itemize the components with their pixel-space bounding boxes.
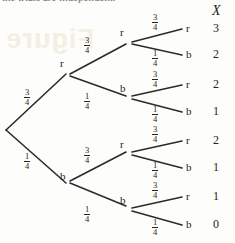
tree-node-n-bb: b xyxy=(120,195,126,206)
prob-label-leaf-7: 34 xyxy=(152,181,158,201)
branch-probability: 14 xyxy=(152,105,158,123)
tree-leaf-leaf-4: b xyxy=(186,106,192,117)
x-column-header: X xyxy=(212,4,221,18)
branch-probability: 14 xyxy=(24,152,30,170)
tree-leaf-leaf-5: r xyxy=(186,135,190,146)
tree-node-n-r: r xyxy=(60,58,64,69)
prob-label-leaf-2: 14 xyxy=(152,49,158,69)
tree-edge xyxy=(70,152,126,181)
branch-probability: 14 xyxy=(84,92,90,110)
tree-node-n-rb: b xyxy=(120,83,126,94)
branch-probability: 14 xyxy=(84,205,90,223)
tree-edge xyxy=(70,76,126,96)
x-value-6: 1 xyxy=(213,161,219,173)
x-value-7: 1 xyxy=(213,190,219,202)
tree-edge xyxy=(6,130,66,183)
tree-leaf-leaf-6: b xyxy=(186,162,192,173)
tree-branch-lines xyxy=(0,0,235,243)
tree-leaf-leaf-1: r xyxy=(186,23,190,34)
tree-leaf-leaf-2: b xyxy=(186,49,192,60)
branch-probability: 14 xyxy=(152,218,158,236)
prob-label-leaf-4: 14 xyxy=(152,105,158,125)
prob-label-n-rr: 34 xyxy=(84,36,90,56)
branch-probability: 14 xyxy=(152,161,158,179)
branch-probability: 34 xyxy=(152,125,158,143)
prob-label-leaf-5: 34 xyxy=(152,125,158,145)
branch-probability: 34 xyxy=(152,13,158,31)
prob-label-n-r: 34 xyxy=(24,88,30,108)
prob-label-leaf-8: 14 xyxy=(152,218,158,238)
prob-label-n-b: 14 xyxy=(24,152,30,172)
prob-label-n-rb: 14 xyxy=(84,92,90,112)
tree-leaf-leaf-7: r xyxy=(186,191,190,202)
branch-probability: 34 xyxy=(152,181,158,199)
prob-label-n-br: 34 xyxy=(84,146,90,166)
tree-edge xyxy=(6,74,66,130)
tree-node-n-rr: r xyxy=(120,27,124,38)
branch-probability: 14 xyxy=(152,49,158,67)
branch-probability: 34 xyxy=(152,70,158,88)
tree-edge xyxy=(70,183,126,206)
prob-label-n-bb: 14 xyxy=(84,205,90,225)
tree-edge xyxy=(70,44,126,74)
prob-label-leaf-1: 34 xyxy=(152,13,158,33)
probability-tree-figure: Figure the trials are independent. Xr34b… xyxy=(0,0,235,243)
x-value-4: 1 xyxy=(213,105,219,117)
tree-leaf-leaf-8: b xyxy=(186,219,192,230)
x-value-3: 2 xyxy=(213,78,219,90)
x-value-8: 0 xyxy=(213,218,219,230)
tree-node-n-br: r xyxy=(120,139,124,150)
x-value-1: 3 xyxy=(213,22,219,34)
prob-label-leaf-3: 34 xyxy=(152,70,158,90)
branch-probability: 34 xyxy=(24,88,30,106)
tree-node-n-b: b xyxy=(60,171,66,182)
tree-leaf-leaf-3: r xyxy=(186,79,190,90)
branch-probability: 34 xyxy=(84,146,90,164)
x-value-2: 2 xyxy=(213,48,219,60)
prob-label-leaf-6: 14 xyxy=(152,161,158,181)
x-value-5: 2 xyxy=(213,134,219,146)
branch-probability: 34 xyxy=(84,36,90,54)
